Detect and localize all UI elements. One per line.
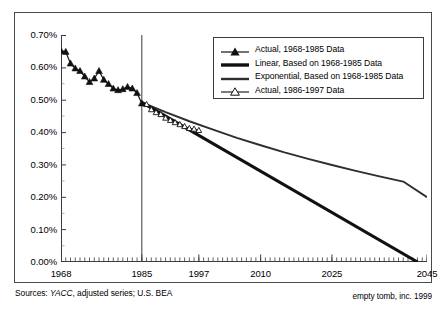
sources-caption: Sources: YACC, adjusted series; U.S. BEA <box>15 288 172 298</box>
x-tick-label: 1997 <box>188 269 209 279</box>
chart-figure: 0.70%0.60%0.50%0.40%0.30%0.20%0.10%0.00%… <box>0 0 447 314</box>
y-tick-label: 0.50% <box>31 95 57 105</box>
y-tick-label: 0.20% <box>31 192 57 202</box>
legend-label: Actual, 1986-1997 Data <box>250 86 344 95</box>
x-major-ticks <box>61 255 427 262</box>
sources-italic-term: YACC <box>50 288 73 298</box>
figure-frame: 0.70%0.60%0.50%0.40%0.30%0.20%0.10%0.00%… <box>14 12 432 283</box>
data-point-marker <box>96 67 103 73</box>
y-tick-label: 0.60% <box>31 63 57 73</box>
legend-item-linear: Linear, Based on 1968-1985 Data <box>220 57 417 71</box>
y-tick-label: 0.30% <box>31 160 57 170</box>
medium-line-key <box>220 71 250 83</box>
x-tick-label: 2045 <box>417 269 438 279</box>
legend-label: Linear, Based on 1968-1985 Data <box>250 59 382 68</box>
series-exponential-line <box>142 102 427 197</box>
series-actual-1968-1985-markers <box>61 47 145 106</box>
thick-line-key <box>220 57 250 69</box>
legend-item-exponential: Exponential, Based on 1968-1985 Data <box>220 70 417 84</box>
data-point-marker <box>124 83 131 89</box>
legend-item-actual-1968-1985: Actual, 1968-1985 Data <box>220 43 417 57</box>
legend-label: Actual, 1968-1985 Data <box>250 45 344 54</box>
y-tick-label: 0.40% <box>31 128 57 138</box>
y-tick-label: 0.00% <box>31 257 57 267</box>
y-tick-label: 0.10% <box>31 225 57 235</box>
filled-triangle-line-key <box>220 44 250 56</box>
sources-suffix: , adjusted series; U.S. BEA <box>73 288 173 298</box>
chart-legend: Actual, 1968-1985 Data Linear, Based on … <box>213 37 424 99</box>
sources-prefix: Sources: <box>15 288 50 298</box>
hollow-triangle-line-key <box>220 84 250 96</box>
data-point-marker <box>100 76 107 82</box>
legend-item-actual-1986-1997: Actual, 1986-1997 Data <box>220 84 417 98</box>
y-tick-label: 0.70% <box>31 30 57 40</box>
x-tick-label: 2025 <box>322 269 343 279</box>
x-tick-label: 1985 <box>131 269 152 279</box>
legend-label: Exponential, Based on 1968-1985 Data <box>250 72 403 81</box>
x-tick-label: 1968 <box>51 269 72 279</box>
data-point-marker <box>67 60 74 66</box>
x-minor-ticks <box>61 257 427 261</box>
series-actual-1968-1985-line <box>61 51 142 104</box>
credit-caption: empty tomb, inc. 1999 <box>352 292 432 302</box>
x-tick-label: 2010 <box>250 269 271 279</box>
